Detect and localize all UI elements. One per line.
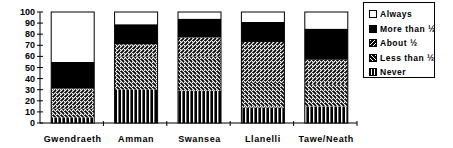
- bar-segment-vertical-stripes: [241, 107, 284, 123]
- bar-segment-vertical-stripes: [115, 90, 158, 123]
- bar-segment-forward-diagonal-hatch: [305, 60, 348, 84]
- vertical-stripe-square-icon: [369, 68, 377, 76]
- x-category-label: Gwendraeth: [44, 134, 102, 144]
- x-category-label: Llanelli: [245, 134, 281, 144]
- legend-label: Less than ½: [380, 53, 435, 63]
- bar-segment-white: [178, 12, 221, 19]
- y-tick-label: 80: [25, 29, 35, 39]
- bar-segment-white: [51, 12, 94, 62]
- legend-item-more-than-half: More than ½: [369, 22, 434, 37]
- bar-segment-white: [305, 12, 348, 29]
- back-hatch-square-icon: [369, 54, 377, 62]
- y-tick-label: 10: [25, 107, 35, 117]
- bar-segment-solid-black: [51, 62, 94, 89]
- x-category-label: Amman: [118, 134, 154, 144]
- bar-segment-back-diagonal-hatch: [115, 56, 158, 89]
- white-square-icon: [369, 10, 377, 18]
- bar-segment-back-diagonal-hatch: [241, 83, 284, 107]
- legend-label: Never: [380, 67, 406, 77]
- y-axis: 0102030405060708090100: [20, 7, 43, 128]
- legend-item-less-than-half: Less than ½: [369, 51, 434, 66]
- bar-segment-vertical-stripes: [178, 91, 221, 123]
- legend-item-about-half: About ½: [369, 36, 434, 51]
- bar-segment-white: [115, 12, 158, 24]
- legend-label: Always: [380, 9, 412, 19]
- y-tick-label: 20: [25, 96, 35, 106]
- black-square-icon: [369, 25, 377, 33]
- bar-segment-vertical-stripes: [305, 106, 348, 123]
- bar-segment-back-diagonal-hatch: [178, 56, 221, 90]
- y-tick-label: 50: [25, 63, 35, 73]
- legend: Always More than ½ About ½ Less than ½ N…: [363, 2, 435, 78]
- x-category-label: Tawe/Neath: [299, 134, 354, 144]
- bar-segment-vertical-stripes: [51, 117, 94, 123]
- legend-label: More than ½: [380, 24, 436, 34]
- y-tick-label: 40: [25, 74, 35, 84]
- legend-item-always: Always: [369, 7, 434, 22]
- bar-segment-solid-black: [115, 24, 158, 44]
- bar-segment-forward-diagonal-hatch: [178, 38, 221, 57]
- legend-label: About ½: [380, 38, 418, 48]
- bar-segment-forward-diagonal-hatch: [115, 44, 158, 56]
- bars: GwendraethAmmanSwanseaLlanelliTawe/Neath: [44, 12, 354, 144]
- x-category-label: Swansea: [178, 134, 221, 144]
- bar-segment-back-diagonal-hatch: [51, 109, 94, 118]
- bar-segment-white: [241, 12, 284, 22]
- bar-segment-solid-black: [241, 22, 284, 42]
- y-tick-label: 100: [20, 7, 35, 17]
- bar-segment-solid-black: [178, 19, 221, 38]
- y-tick-label: 60: [25, 51, 35, 61]
- legend-item-never: Never: [369, 65, 434, 80]
- y-tick-label: 90: [25, 18, 35, 28]
- y-tick-label: 30: [25, 85, 35, 95]
- bar-segment-solid-black: [305, 29, 348, 60]
- bar-segment-back-diagonal-hatch: [305, 84, 348, 106]
- forward-hatch-square-icon: [369, 39, 377, 47]
- y-tick-label: 70: [25, 40, 35, 50]
- bar-tawe-neath: [305, 12, 348, 123]
- bar-segment-forward-diagonal-hatch: [51, 89, 94, 109]
- bar-segment-forward-diagonal-hatch: [241, 42, 284, 83]
- y-tick-label: 0: [30, 118, 35, 128]
- bar-swansea: [178, 12, 221, 123]
- bar-gwendraeth: [51, 12, 94, 123]
- bar-amman: [115, 12, 158, 123]
- bar-llanelli: [241, 12, 284, 123]
